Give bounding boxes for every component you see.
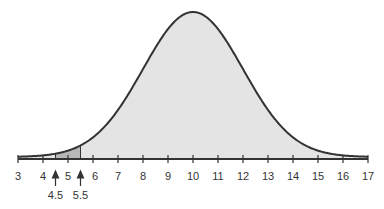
annotation-label: 5.5 xyxy=(73,189,88,201)
x-tick-label: 10 xyxy=(187,170,199,182)
x-tick-label: 11 xyxy=(212,170,223,182)
x-tick-label: 14 xyxy=(287,170,299,182)
x-tick-label: 3 xyxy=(15,170,21,182)
x-tick-label: 4 xyxy=(40,170,46,182)
x-tick-label: 9 xyxy=(165,170,171,182)
x-tick-label: 16 xyxy=(337,170,349,182)
x-tick-label: 7 xyxy=(115,170,121,182)
x-tick-label: 8 xyxy=(140,170,146,182)
x-tick-label: 17 xyxy=(362,170,374,182)
up-arrow-icon xyxy=(78,171,84,186)
x-tick-label: 13 xyxy=(262,170,274,182)
normal-curve-chart: 34567891011121314151617 4.55.5 xyxy=(0,0,384,209)
curve-fill xyxy=(18,12,368,159)
x-tick-label: 5 xyxy=(65,170,71,182)
x-tick-label: 15 xyxy=(312,170,324,182)
up-arrow-icon xyxy=(53,171,59,186)
x-tick-label: 12 xyxy=(237,170,249,182)
x-tick-label: 6 xyxy=(92,170,98,182)
annotation-label: 4.5 xyxy=(48,189,63,201)
